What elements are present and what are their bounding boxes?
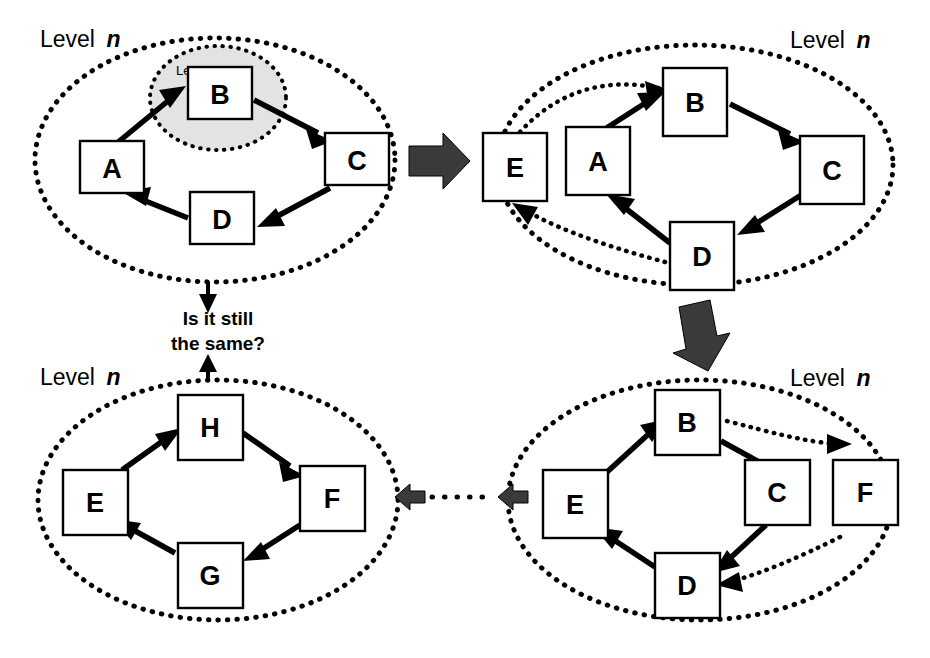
node-label: H xyxy=(200,413,220,443)
node-label: B xyxy=(685,88,705,118)
edge-D-to-E-dotted xyxy=(525,210,665,262)
panel1-node-A[interactable]: A xyxy=(80,141,144,193)
panel3-node-F[interactable]: F xyxy=(833,460,898,525)
question-line-1: Is it still xyxy=(183,308,254,329)
block-arrow-down xyxy=(673,300,730,371)
question-group: Is it still the same? xyxy=(171,282,265,382)
level-word: Level xyxy=(790,365,845,391)
node-label: D xyxy=(692,242,712,272)
panel-bottom-left: Level n E H F xyxy=(38,364,398,620)
panel2-node-D[interactable]: D xyxy=(670,222,734,290)
panel4-node-E[interactable]: E xyxy=(63,470,128,535)
block-arrow-left xyxy=(395,484,528,510)
node-label: D xyxy=(677,571,697,601)
node-label: G xyxy=(199,561,220,591)
level-variable: n xyxy=(856,27,870,53)
panel1-node-C[interactable]: C xyxy=(325,133,389,185)
panel4-node-G[interactable]: G xyxy=(178,543,243,608)
panel2-node-A[interactable]: A xyxy=(566,127,630,195)
level-refinement-diagram: Level n Level n-1 A xyxy=(0,0,930,658)
level-word: Level xyxy=(40,26,95,52)
arrowhead-B-to-F-dotted xyxy=(827,434,852,454)
block-arrow-down-shape xyxy=(673,300,730,371)
diagram-canvas: Level n Level n-1 A xyxy=(0,0,930,658)
edge-C-to-D xyxy=(752,192,806,226)
node-label: E xyxy=(506,153,524,183)
level-word: Level xyxy=(40,364,95,390)
node-label: E xyxy=(86,488,104,518)
node-label: C xyxy=(767,478,787,508)
panel4-level-label: Level n xyxy=(40,364,121,390)
node-label: F xyxy=(324,484,341,514)
panel-bottom-right: Level n E xyxy=(508,365,898,620)
node-label: A xyxy=(102,154,122,184)
level-word: Level xyxy=(790,27,845,53)
edge-E-to-B xyxy=(607,430,653,472)
level-variable: n xyxy=(106,364,120,390)
node-label: C xyxy=(822,156,842,186)
panel2-node-E[interactable]: E xyxy=(483,133,547,201)
panel3-node-E[interactable]: E xyxy=(543,470,608,538)
panel1-node-B[interactable]: B xyxy=(188,67,252,119)
panel3-node-D[interactable]: D xyxy=(655,553,720,618)
panel3-edges xyxy=(594,419,852,592)
question-arrow-out-head xyxy=(199,354,217,372)
node-label: E xyxy=(566,490,584,520)
edge-F-to-G xyxy=(258,525,300,552)
node-label: F xyxy=(857,478,874,508)
panel4-node-H[interactable]: H xyxy=(178,395,243,460)
panel2-level-label: Level n xyxy=(790,27,871,53)
edge-C-to-D xyxy=(272,188,330,219)
panel-top-left: Level n Level n-1 A xyxy=(35,26,395,282)
panel3-level-label: Level n xyxy=(790,365,871,391)
edge-B-to-F-dotted xyxy=(727,421,838,444)
node-label: B xyxy=(677,408,697,438)
block-arrow-right-shape xyxy=(409,133,470,189)
edge-B-to-C xyxy=(730,104,790,134)
arrowhead-C-to-D xyxy=(257,208,285,227)
panel2-node-C[interactable]: C xyxy=(800,136,864,204)
node-label: B xyxy=(210,80,230,110)
node-label: C xyxy=(347,146,367,176)
question-line-2: the same? xyxy=(171,333,265,354)
panel1-level-label: Level n xyxy=(40,26,121,52)
node-label: A xyxy=(588,147,608,177)
panel4-node-F[interactable]: F xyxy=(300,466,365,531)
level-variable: n xyxy=(856,365,870,391)
arrowhead-D-to-E-dotted xyxy=(512,203,538,225)
panel3-node-C[interactable]: C xyxy=(745,460,810,525)
panel1-node-D[interactable]: D xyxy=(190,192,254,244)
block-arrow-left-shape-outer xyxy=(395,484,425,510)
edge-H-to-F xyxy=(243,433,290,466)
block-arrow-left-shape-inner xyxy=(498,484,528,510)
panel3-node-B[interactable]: B xyxy=(655,390,720,455)
level-variable: n xyxy=(106,26,120,52)
block-arrow-right xyxy=(409,133,470,189)
node-label: D xyxy=(212,205,232,235)
panel2-edges xyxy=(512,81,806,262)
panel-top-right: Level n E xyxy=(483,27,893,290)
panel2-node-B[interactable]: B xyxy=(663,68,727,136)
